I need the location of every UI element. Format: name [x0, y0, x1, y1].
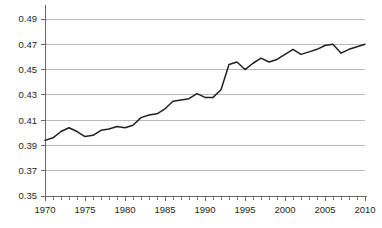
y-tick-label: 0.47	[19, 39, 38, 50]
y-tick-label: 0.39	[19, 140, 38, 151]
x-tick-label: 1995	[234, 204, 255, 215]
y-axis-tick-labels: 0.350.370.390.410.430.450.470.49	[19, 13, 38, 201]
y-tick-label: 0.35	[19, 190, 38, 201]
x-tick-label: 2010	[354, 204, 375, 215]
x-tick-label: 1980	[114, 204, 135, 215]
x-tick-label: 1975	[74, 204, 95, 215]
x-tick-label: 2000	[274, 204, 295, 215]
x-tick-label: 2005	[314, 204, 335, 215]
line-chart: 0.350.370.390.410.430.450.470.49 1970197…	[0, 0, 382, 228]
y-tick-label: 0.41	[19, 115, 38, 126]
y-tick-label: 0.49	[19, 13, 38, 24]
x-axis-tick-marks	[45, 196, 365, 201]
chart-canvas: 0.350.370.390.410.430.450.470.49 1970197…	[0, 0, 382, 228]
y-tick-label: 0.43	[19, 89, 38, 100]
x-axis-tick-labels: 197019751980198519901995200020052010	[34, 204, 375, 215]
y-tick-label: 0.37	[19, 165, 38, 176]
data-series-line	[45, 44, 365, 140]
y-tick-label: 0.45	[19, 64, 38, 75]
gridlines-group	[41, 19, 365, 196]
x-tick-label: 1985	[154, 204, 175, 215]
x-tick-label: 1970	[34, 204, 55, 215]
x-tick-label: 1990	[194, 204, 215, 215]
